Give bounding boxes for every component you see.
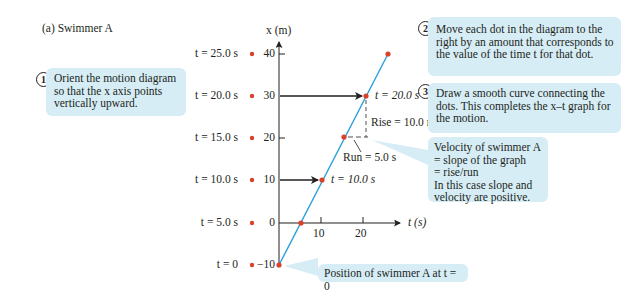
y-tick-10: 10 — [250, 173, 275, 186]
motion-diagram-dots — [250, 52, 254, 267]
step-1-line-1: Orient the motion diagram — [54, 72, 180, 85]
point-label-t10: t = 10.0 s — [331, 173, 375, 186]
step-2-line-1: Move each dot in the diagram to the — [436, 23, 615, 36]
velocity-line-2: = slope of the graph — [434, 154, 542, 167]
velocity-line-3: = rise/run — [434, 166, 542, 179]
y-tick-neg10: −10 — [250, 258, 275, 271]
velocity-line-4: In this case slope and — [434, 179, 542, 192]
x-tick-20: 20 — [355, 227, 367, 240]
x-tick-10: 10 — [313, 227, 325, 240]
step-2-line-2: right by an amount that corresponds to — [436, 36, 615, 49]
y-tick-30: 30 — [250, 89, 275, 102]
motion-label-t5: t = 5.0 s — [0, 216, 238, 229]
motion-label-t15: t = 15.0 s — [0, 131, 238, 144]
velocity-line-1: Velocity of swimmer A — [434, 141, 542, 154]
y-tick-40: 40 — [250, 47, 275, 60]
step-2-line-3: the value of the time t for that dot. — [436, 48, 615, 61]
position-callout: Position of swimmer A at t = 0 — [318, 264, 468, 282]
velocity-callout: Velocity of swimmer A = slope of the gra… — [428, 137, 548, 202]
x-axis-label: t (s) — [408, 216, 426, 229]
motion-label-t25: t = 25.0 s — [0, 47, 238, 60]
position-callout-tail — [284, 258, 318, 276]
rise-label: Rise = 10.0 m — [371, 116, 436, 129]
step-1-line-3: vertically upward. — [54, 97, 180, 110]
run-label: Run = 5.0 s — [343, 151, 396, 164]
motion-label-t0: t = 0 — [0, 258, 238, 271]
y-axis-label: x (m) — [266, 24, 291, 37]
step-3-callout: Draw a smooth curve connecting the dots.… — [428, 83, 621, 133]
y-tick-20: 20 — [250, 131, 275, 144]
step-3-line-1: Draw a smooth curve connecting the — [436, 87, 615, 100]
step-3-line-2: dots. This completes the x–t graph for — [436, 100, 615, 113]
velocity-line-5: velocity are positive. — [434, 191, 542, 204]
step-1-callout: Orient the motion diagram so that the x … — [46, 68, 186, 116]
step-3-line-3: the motion. — [436, 112, 615, 125]
motion-label-t10: t = 10.0 s — [0, 173, 238, 186]
y-tick-0: 0 — [250, 216, 275, 229]
point-label-t20: t = 20.0 s — [375, 89, 419, 102]
step-1-line-2: so that the x axis points — [54, 85, 180, 98]
step-2-callout: Move each dot in the diagram to the righ… — [428, 17, 621, 76]
